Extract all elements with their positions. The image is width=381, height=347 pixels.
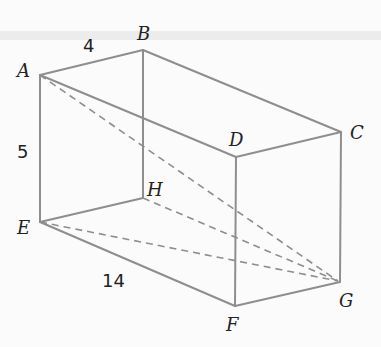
edge-EH (40, 198, 143, 222)
diagonal-AG (40, 75, 338, 281)
edge-DF (235, 157, 236, 306)
vertex-label-B: B (136, 23, 150, 44)
solid-edges (40, 50, 341, 306)
diagonal-HG (143, 198, 338, 281)
edge-FG (235, 282, 340, 306)
vertex-label-D: D (228, 129, 244, 150)
dimension-label-EF: 14 (102, 270, 125, 291)
vertex-label-F: F (225, 314, 240, 335)
edge-EF (40, 222, 235, 306)
vertex-label-E: E (16, 217, 30, 238)
diagonal-EG (40, 222, 338, 281)
edge-CG (340, 132, 341, 282)
edge-DC (236, 132, 341, 157)
edge-BC (143, 50, 341, 132)
vertex-label-G: G (339, 290, 353, 311)
dashed-lines (40, 75, 338, 281)
prism-diagram: A B C D E F G H 4 5 14 (0, 0, 381, 347)
vertex-label-C: C (350, 122, 364, 143)
vertex-label-A: A (15, 60, 30, 81)
edge-AD (40, 75, 236, 157)
vertex-label-H: H (146, 179, 163, 200)
dimension-label-AB: 4 (83, 35, 94, 56)
dimension-label-AE: 5 (17, 141, 28, 162)
